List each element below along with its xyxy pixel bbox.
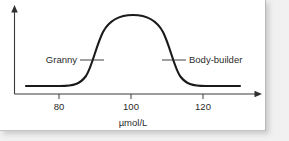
x-axis-arrow-icon [255, 91, 263, 97]
figure-root: 80 100 120 µmol/L Granny Body-builder [0, 0, 289, 141]
y-axis-arrow-icon [11, 5, 18, 13]
x-tick-label-100: 100 [123, 101, 139, 112]
annotation-granny-label: Granny [46, 54, 77, 65]
bell-curve-chart: 80 100 120 µmol/L Granny Body-builder [0, 0, 289, 141]
annotation-body-builder-label: Body-builder [189, 54, 242, 65]
x-axis: 80 100 120 µmol/L [15, 91, 263, 128]
x-axis-title: µmol/L [119, 117, 148, 128]
x-tick-label-120: 120 [195, 101, 211, 112]
y-axis [11, 5, 18, 94]
distribution-curve [26, 15, 240, 86]
x-tick-label-80: 80 [54, 101, 65, 112]
bell-curve-path [26, 15, 240, 86]
